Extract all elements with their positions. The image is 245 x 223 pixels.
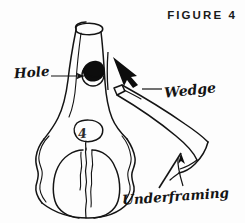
wedge-arrow-icon bbox=[113, 57, 138, 88]
root-buttress-left-icon bbox=[53, 150, 83, 218]
root-center-crease-icon bbox=[85, 148, 86, 218]
bore-hole-group bbox=[82, 61, 105, 86]
hole-label: Hole bbox=[14, 65, 50, 81]
figure-illustration: FIGURE 4 bbox=[0, 0, 245, 223]
wedge-pointer-group bbox=[113, 57, 162, 89]
tree-trunk-group bbox=[36, 22, 135, 218]
root-buttress-right-icon bbox=[92, 150, 120, 218]
callout-number-label: 4 bbox=[77, 126, 88, 142]
root-center-crease-left-icon bbox=[80, 152, 82, 190]
wedge-group bbox=[114, 85, 208, 180]
root-center-crease-right-icon bbox=[91, 150, 93, 207]
trunk-top-face-icon bbox=[76, 23, 103, 34]
underframing-pointer-group bbox=[159, 153, 185, 188]
trunk-left-outline-icon bbox=[44, 30, 76, 139]
underframing-edge-icon bbox=[170, 173, 179, 180]
root-flare-left-icon bbox=[36, 139, 44, 203]
trunk-front-seam-icon bbox=[107, 52, 108, 90]
